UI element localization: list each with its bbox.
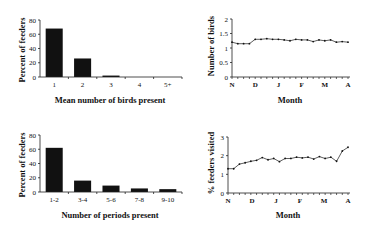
x-axis-label: Month xyxy=(278,95,303,105)
y-tick-label: 2 xyxy=(221,152,225,160)
y-tick-label: 1 xyxy=(225,45,229,53)
data-point xyxy=(301,157,303,159)
bar-chart-svg: Percent of feeders 020406080 1-23-45-67-… xyxy=(0,115,184,229)
data-point xyxy=(249,43,251,45)
bar xyxy=(159,189,176,192)
y-tick-label: 80 xyxy=(29,17,37,25)
data-point xyxy=(307,156,309,158)
x-axis: NDJFMA xyxy=(225,193,350,205)
x-tick-label: N xyxy=(225,197,230,205)
data-point xyxy=(319,156,321,158)
data-point xyxy=(347,41,349,43)
bar xyxy=(74,58,91,77)
data-point xyxy=(267,159,269,161)
y-tick-label: 0 xyxy=(221,190,225,198)
data-point xyxy=(250,160,252,162)
x-tick-label: J xyxy=(277,81,281,89)
x-axis: NDJFMA xyxy=(229,77,350,89)
x-tick-label: 5-6 xyxy=(106,196,116,204)
x-tick-label: F xyxy=(299,81,303,89)
x-tick-label: 9-10 xyxy=(161,196,174,204)
chart-mean-birds-present: Percent of feeders 020406080 12345+ Mean… xyxy=(0,0,184,115)
x-tick-label: J xyxy=(274,197,278,205)
data-point xyxy=(330,156,332,158)
bar-chart-svg: Percent of feeders 020406080 12345+ Mean… xyxy=(0,0,184,115)
bar xyxy=(102,186,119,192)
x-axis: 12345+ xyxy=(40,77,182,89)
bar xyxy=(46,29,63,77)
x-axis-label: Number of periods present xyxy=(61,210,158,220)
y-tick-label: 2 xyxy=(225,16,229,24)
y-tick-label: 0 xyxy=(33,189,37,197)
data-point xyxy=(336,160,338,162)
data-point xyxy=(301,39,303,41)
y-tick-label: 1 xyxy=(221,171,225,179)
x-tick-label: 1 xyxy=(52,81,56,89)
x-tick-label: 5+ xyxy=(164,81,172,89)
x-tick-label: M xyxy=(321,197,328,205)
data-point xyxy=(341,41,343,43)
chart-number-of-birds: Number of birds 00.511.52 NDJFMA Month xyxy=(184,0,368,115)
data-point xyxy=(233,168,235,170)
data-point xyxy=(279,161,281,163)
x-axis-label: Month xyxy=(276,210,301,220)
chart-feeders-visited: % feeders visited 0123 NDJFMA Month xyxy=(184,115,368,229)
x-axis-label: Mean number of birds present xyxy=(55,95,166,105)
x-tick-label: 1-2 xyxy=(50,196,60,204)
data-line xyxy=(231,38,349,45)
y-axis-label: Number of birds xyxy=(206,15,216,76)
bar xyxy=(46,148,63,192)
data-point xyxy=(227,168,229,170)
x-tick-label: 4 xyxy=(138,81,142,89)
data-point xyxy=(266,38,268,40)
y-tick-label: 20 xyxy=(29,174,37,182)
y-axis-label: % feeders visited xyxy=(206,132,216,195)
y-axis: 0123 xyxy=(221,134,229,198)
line-chart-svg: Number of birds 00.511.52 NDJFMA Month xyxy=(184,0,368,115)
y-axis: 020406080 xyxy=(29,132,40,197)
y-tick-label: 1.5 xyxy=(219,30,228,38)
data-point xyxy=(256,159,258,161)
bars xyxy=(46,148,177,192)
y-tick-label: 80 xyxy=(29,132,37,140)
data-point xyxy=(272,38,274,40)
y-tick-label: 0 xyxy=(225,74,229,82)
y-tick-label: 40 xyxy=(29,160,37,168)
x-tick-label: 3 xyxy=(109,81,113,89)
data-point xyxy=(283,39,285,41)
y-tick-label: 0 xyxy=(33,74,37,82)
data-point xyxy=(273,158,275,160)
x-axis: 1-23-45-67-89-10 xyxy=(40,192,182,204)
y-tick-label: 60 xyxy=(29,31,37,39)
y-tick-label: 3 xyxy=(221,134,225,142)
x-tick-label: A xyxy=(345,197,350,205)
data-point xyxy=(261,157,263,159)
x-tick-label: 3-4 xyxy=(78,196,88,204)
data-point xyxy=(341,150,343,152)
chart-periods-present: Percent of feeders 020406080 1-23-45-67-… xyxy=(0,115,184,229)
y-axis: 020406080 xyxy=(29,17,40,82)
data-point xyxy=(239,163,241,165)
data-point xyxy=(313,158,315,160)
data-point xyxy=(254,38,256,40)
y-axis-label: Percent of feeders xyxy=(17,132,27,198)
data-point xyxy=(231,41,233,43)
data-point xyxy=(347,146,349,148)
y-tick-label: 20 xyxy=(29,59,37,67)
data-point xyxy=(237,43,239,45)
y-axis: 00.511.52 xyxy=(219,16,232,82)
x-tick-label: F xyxy=(298,197,302,205)
data-point xyxy=(290,158,292,160)
bar xyxy=(74,181,91,192)
x-tick-label: 7-8 xyxy=(135,196,145,204)
data-point xyxy=(296,156,298,158)
x-tick-label: N xyxy=(229,81,234,89)
y-axis-label: Percent of feeders xyxy=(17,17,27,83)
bar xyxy=(131,188,148,192)
data-point xyxy=(243,43,245,45)
data-point xyxy=(318,39,320,41)
bars xyxy=(46,29,120,77)
y-tick-label: 60 xyxy=(29,146,37,154)
data-point xyxy=(278,38,280,40)
data-point xyxy=(336,41,338,43)
